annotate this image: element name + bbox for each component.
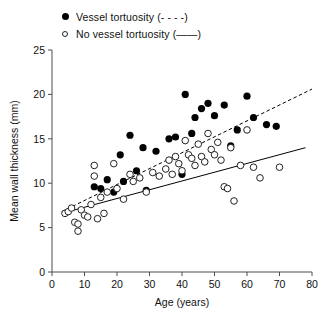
data-point-series-0 [91, 183, 98, 190]
data-point-series-1 [130, 178, 137, 185]
data-point-series-1 [205, 130, 212, 137]
data-point-series-0 [104, 176, 111, 183]
data-point-series-0 [133, 167, 140, 174]
data-point-series-1 [104, 189, 111, 196]
regression-line-0 [62, 89, 312, 212]
data-point-series-1 [88, 201, 95, 208]
data-point-series-0 [165, 135, 172, 142]
y-tick-label: 5 [39, 221, 45, 233]
data-point-series-0 [198, 105, 205, 112]
x-tick-label: 30 [144, 278, 156, 290]
data-point-series-1 [101, 210, 108, 217]
data-point-series-0 [172, 133, 179, 140]
data-point-series-0 [126, 132, 133, 139]
data-point-series-1 [169, 171, 176, 178]
data-point-series-1 [214, 139, 221, 146]
data-point-series-1 [91, 173, 98, 180]
data-point-series-1 [224, 185, 231, 192]
x-tick-label: 0 [49, 278, 55, 290]
data-point-series-0 [182, 91, 189, 98]
regression-line-1 [62, 148, 306, 214]
data-point-series-0 [263, 121, 270, 128]
data-point-series-0 [204, 100, 211, 107]
y-tick-label: 0 [39, 266, 45, 278]
data-point-series-1 [244, 127, 251, 134]
data-point-series-1 [211, 151, 218, 158]
data-point-series-1 [250, 164, 257, 171]
y-tick-label: 15 [33, 133, 45, 145]
data-point-series-1 [114, 185, 121, 192]
data-point-series-1 [143, 189, 150, 196]
data-point-series-0 [273, 123, 280, 130]
data-point-series-0 [188, 130, 195, 137]
data-point-series-1 [231, 198, 238, 205]
data-point-series-1 [175, 160, 182, 167]
data-point-series-1 [192, 162, 199, 169]
data-point-series-0 [191, 114, 198, 121]
data-point-series-1 [276, 164, 283, 171]
data-point-series-1 [162, 166, 169, 173]
data-point-series-0 [117, 151, 124, 158]
data-point-series-0 [139, 144, 146, 151]
data-point-series-1 [110, 160, 117, 167]
data-point-series-1 [84, 214, 91, 221]
x-tick-label: 60 [241, 278, 253, 290]
data-point-series-1 [91, 162, 98, 169]
x-tick-label: 40 [176, 278, 188, 290]
x-tick-label: 20 [111, 278, 123, 290]
data-point-series-1 [172, 153, 179, 160]
y-tick-label: 10 [33, 177, 45, 189]
data-point-series-1 [182, 137, 189, 144]
scatter-plot-figure: Vessel tortuosity (- - - -) No vessel to… [0, 0, 323, 325]
x-axis-title: Age (years) [155, 296, 209, 308]
data-point-series-1 [257, 175, 264, 182]
x-tick-label: 80 [306, 278, 318, 290]
data-point-series-0 [97, 185, 104, 192]
y-axis-title: Mean wall thickness (mm) [8, 100, 20, 221]
data-point-series-1 [120, 196, 127, 203]
data-point-series-1 [166, 157, 173, 164]
data-point-series-1 [179, 167, 186, 174]
x-tick-label: 50 [209, 278, 221, 290]
plot-canvas: 051015202501020304050607080Age (years)Me… [0, 0, 323, 325]
data-point-series-1 [68, 205, 75, 212]
data-point-series-1 [227, 144, 234, 151]
y-tick-label: 20 [33, 88, 45, 100]
data-point-series-1 [156, 173, 163, 180]
data-point-series-1 [75, 221, 82, 228]
x-tick-label: 70 [274, 278, 286, 290]
data-point-series-1 [237, 162, 244, 169]
data-point-series-1 [149, 169, 156, 176]
data-point-series-0 [120, 178, 127, 185]
data-point-series-1 [127, 171, 134, 178]
data-point-series-1 [218, 157, 225, 164]
data-point-series-1 [75, 228, 82, 235]
data-point-series-1 [94, 215, 101, 222]
data-point-series-0 [234, 126, 241, 133]
data-point-series-0 [221, 101, 228, 108]
data-point-series-0 [250, 114, 257, 121]
data-point-series-0 [243, 93, 250, 100]
data-point-series-1 [201, 159, 208, 166]
data-point-series-0 [211, 112, 218, 119]
y-tick-label: 25 [33, 44, 45, 56]
data-point-series-1 [188, 155, 195, 162]
data-point-series-0 [152, 148, 159, 155]
data-point-series-1 [136, 175, 143, 182]
data-point-series-1 [195, 141, 202, 148]
x-tick-label: 10 [79, 278, 91, 290]
data-point-series-1 [97, 194, 104, 201]
